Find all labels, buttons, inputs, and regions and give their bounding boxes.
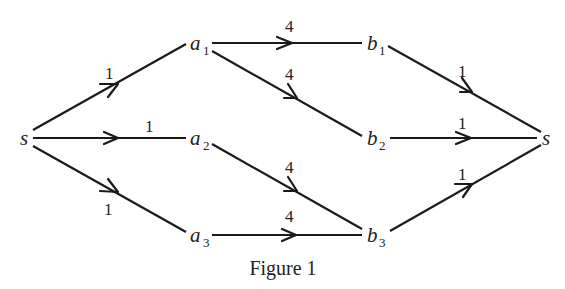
weight-a3-b3: 4: [285, 207, 294, 226]
edge-s-a3: [33, 146, 186, 232]
node-b3: b 3: [367, 223, 386, 250]
weight-a2-b3: 4: [285, 158, 294, 177]
weight-s-a1: 1: [105, 64, 114, 83]
node-a2: a 2: [190, 126, 210, 153]
figure-caption: Figure 1: [249, 257, 316, 280]
node-source-s: s: [20, 126, 28, 150]
node-b1-label: b: [367, 31, 378, 55]
node-a2-subscript: 2: [203, 138, 210, 153]
node-b2-subscript: 2: [379, 138, 386, 153]
weight-s-a3: 1: [104, 200, 113, 219]
node-b3-label: b: [367, 223, 378, 247]
edge-a1-b1: [212, 37, 362, 49]
node-a1-subscript: 1: [203, 43, 210, 58]
weight-s-a2: 1: [145, 117, 154, 136]
weight-b2-s: 1: [458, 114, 467, 133]
node-b1-subscript: 1: [379, 43, 386, 58]
edge-s-a1: [33, 44, 186, 130]
edge-b3-s: [390, 145, 541, 231]
edge-a3-b3: [212, 229, 362, 241]
node-a3: a 3: [190, 223, 210, 250]
node-a3-label: a: [190, 223, 201, 247]
weight-b3-s: 1: [458, 165, 467, 184]
node-a2-label: a: [190, 126, 201, 150]
weight-b1-s: 1: [458, 62, 467, 81]
node-a3-subscript: 3: [203, 235, 210, 250]
node-a1: a 1: [190, 31, 210, 58]
node-b3-subscript: 3: [379, 235, 386, 250]
node-b2-label: b: [367, 126, 378, 150]
node-a1-label: a: [190, 31, 201, 55]
weight-a1-b2: 4: [285, 65, 294, 84]
node-b1: b 1: [367, 31, 386, 58]
network-flow-diagram: 1 1 1 4 4 4 4 1 1 1 s a 1 a 2 a 3 b 1 b …: [0, 0, 565, 289]
node-b2: b 2: [367, 126, 386, 153]
edge-a1-b2: [212, 51, 362, 136]
node-sink-s: s: [542, 126, 550, 150]
edge-b2-s: [390, 132, 537, 144]
edge-s-a2: [33, 132, 186, 144]
weight-a1-b1: 4: [285, 17, 294, 36]
